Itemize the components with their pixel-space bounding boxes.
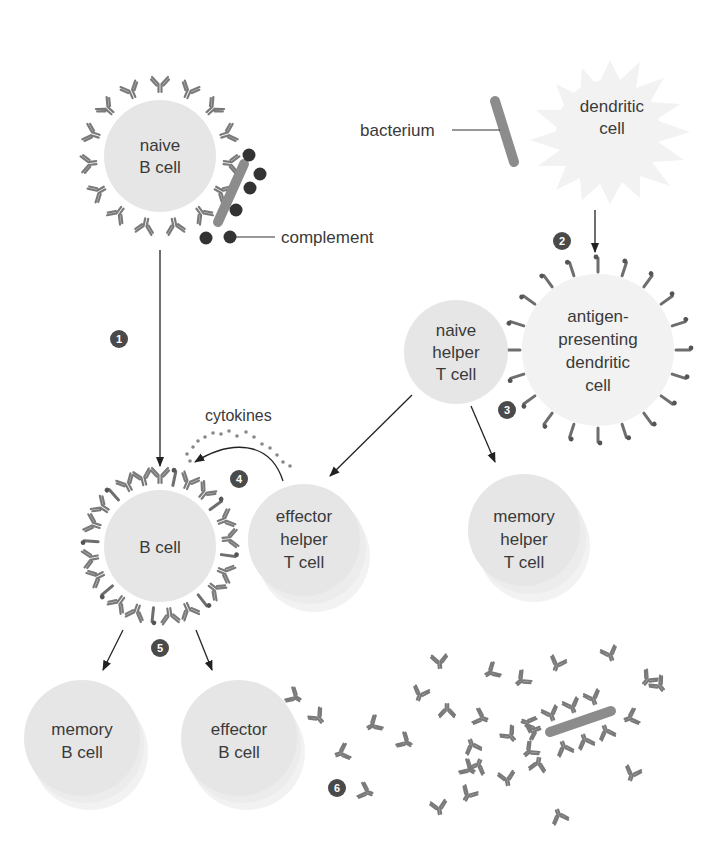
bacterium: bacterium	[360, 101, 514, 162]
step-badge-6: 6	[328, 779, 346, 797]
memory-b-label-1: memory	[51, 720, 113, 739]
svg-text:2: 2	[559, 235, 565, 247]
svg-text:3: 3	[504, 404, 510, 416]
effector-helper-t-label-3: T cell	[284, 553, 324, 572]
complement-dot	[243, 149, 256, 162]
svg-text:6: 6	[334, 782, 340, 794]
svg-text:1: 1	[116, 333, 122, 345]
effector-b-label-1: effector	[211, 720, 268, 739]
naive-helper-t-label-2: helper	[432, 343, 480, 362]
svg-text:5: 5	[157, 642, 163, 654]
step-badge-3: 3	[498, 401, 516, 419]
apc-label-4: cell	[585, 376, 611, 395]
memory-helper-t-label-3: T cell	[504, 553, 544, 572]
effector-helper-t-label-2: helper	[280, 530, 328, 549]
naive-b-cell-label-2: B cell	[139, 158, 181, 177]
complement-dot	[244, 182, 257, 195]
effector-helper-t-cells: effector helper T cell	[248, 484, 370, 612]
antibody-coated-bacterium	[525, 689, 616, 772]
effector-helper-t-label-1: effector	[276, 507, 333, 526]
step-badge-1: 1	[110, 330, 128, 348]
dendritic-cell-label-2: cell	[599, 119, 625, 138]
memory-helper-t-cells: memory helper T cell	[468, 474, 590, 602]
effector-b-label-2: B cell	[218, 743, 260, 762]
step-badge-5: 5	[151, 639, 169, 657]
complement-label: complement	[281, 228, 374, 247]
step-badge-4: 4	[230, 470, 248, 488]
dendritic-cell-label-1: dendritic	[580, 97, 645, 116]
b-cell: B cell	[80, 467, 239, 625]
arrow-to-effector-b	[196, 630, 212, 670]
complement-dot	[224, 231, 237, 244]
naive-helper-t-label-3: T cell	[436, 365, 476, 384]
memory-helper-t-label-2: helper	[500, 530, 548, 549]
dendritic-cell: dendritic cell	[530, 60, 690, 204]
bacterium-label: bacterium	[360, 121, 435, 140]
complement-dot	[230, 204, 243, 217]
arrow-to-memory-helper-t	[471, 406, 495, 462]
memory-helper-t-label-1: memory	[493, 507, 555, 526]
apc-label-1: antigen-	[567, 307, 628, 326]
antigen-presenting-dendritic-cell: antigen- presenting dendritic cell	[503, 255, 694, 446]
cytokines-label: cytokines	[205, 407, 272, 424]
naive-helper-t-label-1: naive	[436, 321, 477, 340]
cytokines: cytokines	[185, 407, 292, 481]
naive-b-cell: naive B cell	[80, 77, 239, 235]
immune-response-diagram: naive B cell complement dendritic cell b…	[0, 0, 706, 859]
step-badge-2: 2	[553, 232, 571, 250]
apc-label-3: dendritic	[566, 353, 631, 372]
apc-label-2: presenting	[558, 330, 637, 349]
b-cell-label: B cell	[139, 538, 181, 557]
bacterium-with-complement: complement	[200, 149, 374, 248]
naive-b-cell-label-1: naive	[140, 136, 181, 155]
memory-b-cells: memory B cell	[24, 680, 148, 810]
naive-helper-t-cell: naive helper T cell	[404, 300, 508, 404]
complement-dot	[254, 168, 267, 181]
complement-dot	[200, 232, 213, 245]
svg-text:4: 4	[236, 473, 243, 485]
arrow-to-effector-helper-t	[330, 395, 412, 476]
memory-b-label-2: B cell	[61, 743, 103, 762]
arrow-to-memory-b	[103, 630, 123, 670]
